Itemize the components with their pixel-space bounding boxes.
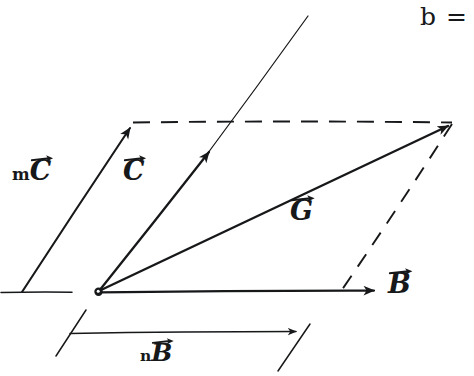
- corner-equation-text: b =: [420, 4, 468, 29]
- vector-diagram-svg: [0, 0, 474, 376]
- baseline-left-stub: [1, 292, 72, 293]
- vector-arrow-icon: [124, 155, 147, 163]
- vector-arrow-icon: [291, 195, 316, 203]
- vector-C-with-arrow: C: [123, 157, 145, 184]
- label-n-scalar: n: [140, 346, 151, 365]
- vector-G-with-arrow: G: [290, 197, 313, 224]
- vector-mC-shaft: [22, 128, 130, 292]
- measure-line-nB: [70, 332, 296, 334]
- label-m-times-vector-C: mC: [12, 157, 51, 184]
- dashed-top-edge: [133, 122, 452, 123]
- label-vector-B: B: [388, 270, 411, 297]
- vector-arrow-icon: [152, 338, 175, 346]
- vector-arrow-icon: [31, 155, 54, 163]
- vector-C-shaft: [99, 152, 209, 291]
- figure-canvas: mC C G B nB b =: [0, 0, 474, 376]
- vector-G-shaft: [101, 126, 448, 290]
- label-m-scalar: m: [12, 164, 30, 184]
- label-vector-G: G: [290, 197, 313, 224]
- vector-B-with-arrow: B: [388, 270, 411, 297]
- label-n-times-vector-B: nB: [140, 340, 172, 365]
- vector-C-with-arrow: C: [30, 157, 52, 184]
- label-vector-C: C: [123, 157, 145, 184]
- origin-point-highlight: [97, 290, 100, 293]
- vector-C-extension-line: [205, 16, 308, 157]
- vector-B-shaft: [100, 291, 374, 293]
- vector-arrow-icon: [389, 268, 414, 276]
- vector-B-with-arrow: B: [151, 340, 172, 365]
